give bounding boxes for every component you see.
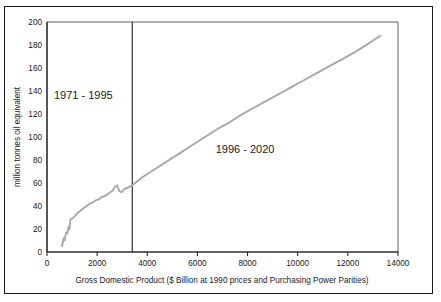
y-tick-label: 40 <box>33 202 43 211</box>
y-tick-label: 80 <box>33 156 43 165</box>
y-tick-label: 120 <box>28 110 42 119</box>
y-tick-label: 0 <box>37 248 42 257</box>
y-tick-label: 180 <box>28 41 42 50</box>
annotation-historical-period: 1971 - 1995 <box>54 89 113 101</box>
series-line-historical <box>62 185 132 246</box>
series-line-projected <box>132 36 380 186</box>
y-tick-label: 100 <box>28 133 42 142</box>
y-axis-ticks: 020406080100120140160180200 <box>28 18 42 257</box>
x-tick-label: 14000 <box>387 259 410 268</box>
x-tick-label: 6000 <box>188 259 207 268</box>
x-tick-label: 10000 <box>286 259 309 268</box>
x-tick-label: 4000 <box>138 259 157 268</box>
y-tick-label: 20 <box>33 225 43 234</box>
x-axis-title: Gross Domestic Product ($ Billion at 199… <box>75 276 368 285</box>
x-tick-label: 0 <box>45 259 50 268</box>
gdp-energy-line-chart: 02000400060008000100001200014000 0204060… <box>0 0 441 302</box>
x-axis-ticks: 02000400060008000100001200014000 <box>45 252 410 268</box>
x-tick-label: 8000 <box>238 259 257 268</box>
annotation-projected-period: 1996 - 2020 <box>216 143 275 155</box>
x-tick-label: 2000 <box>88 259 107 268</box>
y-tick-label: 60 <box>33 179 43 188</box>
y-tick-label: 140 <box>28 87 42 96</box>
y-axis-title: million tonnes oil equivalent <box>13 86 22 187</box>
y-tick-label: 160 <box>28 64 42 73</box>
x-tick-label: 12000 <box>336 259 359 268</box>
y-tick-label: 200 <box>28 18 42 27</box>
